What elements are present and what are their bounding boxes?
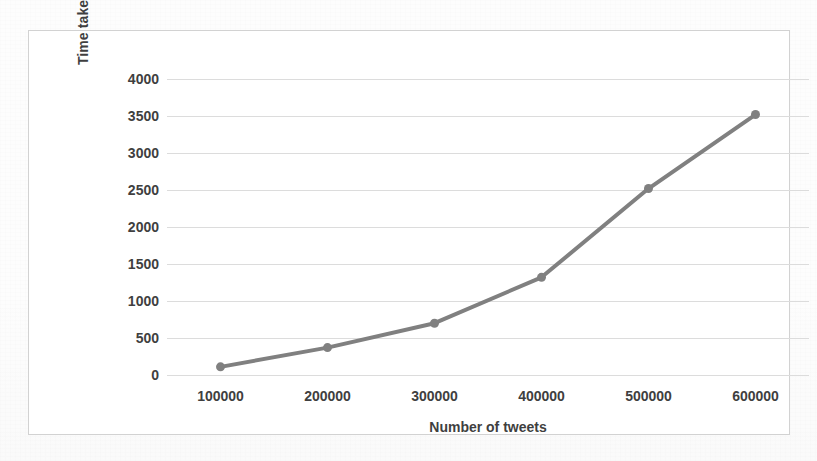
y-axis-tick-label: 2000 (101, 219, 159, 235)
x-axis-title: Number of tweets (167, 419, 809, 435)
x-axis-tick-label: 400000 (487, 387, 597, 405)
data-point-marker (216, 362, 225, 371)
x-axis-tick-label: 200000 (273, 387, 383, 405)
data-point-marker (323, 343, 332, 352)
line-series (167, 79, 809, 375)
y-axis-tick-label: 0 (101, 367, 159, 383)
plot-area (167, 79, 809, 375)
x-axis-tick-label: 300000 (380, 387, 490, 405)
data-point-marker (537, 273, 546, 282)
y-axis-tick-label: 1500 (101, 256, 159, 272)
y-axis-tick-label: 500 (101, 330, 159, 346)
series-line (221, 115, 756, 367)
y-axis-tick-label: 2500 (101, 182, 159, 198)
gridline (167, 375, 809, 376)
y-axis-tick-labels: 05001000150020002500300035004000 (101, 71, 159, 383)
x-axis-tick-labels: 100000200000300000400000500000600000 (167, 387, 809, 407)
y-axis-tick-label: 1000 (101, 293, 159, 309)
y-axis-tick-label: 4000 (101, 71, 159, 87)
x-axis-tick-label: 600000 (701, 387, 811, 405)
x-axis-tick-label: 100000 (166, 387, 276, 405)
y-axis-tick-label: 3000 (101, 145, 159, 161)
data-point-marker (644, 184, 653, 193)
y-axis-title: Time taken in second (75, 0, 97, 113)
data-point-marker (751, 110, 760, 119)
y-axis-tick-label: 3500 (101, 108, 159, 124)
data-point-marker (430, 319, 439, 328)
chart-frame: Time taken in second 0500100015002000250… (28, 30, 790, 435)
x-axis-tick-label: 500000 (594, 387, 704, 405)
